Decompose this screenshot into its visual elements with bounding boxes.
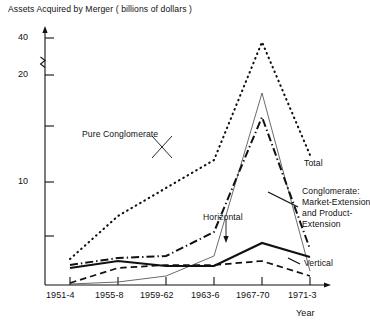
series-pure-conglomerate: [70, 93, 310, 284]
annotation-leaders: [152, 136, 300, 264]
annotation-horizontal: Horizontal: [203, 212, 243, 223]
y-tick-label-20: 20: [18, 69, 28, 79]
x-tick-label-1971-3: 1971-3: [288, 290, 317, 300]
x-tick-label-1963-6: 1963-6: [191, 290, 220, 300]
axes: [41, 26, 332, 288]
y-tick-label-40: 40: [18, 32, 28, 42]
x-tick-label-1951-4: 1951-4: [46, 290, 75, 300]
annotation-vertical: Vertical: [304, 258, 333, 269]
y-tick-label-10: 10: [18, 176, 28, 186]
annotation-conglomerate-line-4: Extension: [302, 219, 341, 230]
annotation-conglomerate-line-1: Conglomerate:: [302, 186, 360, 197]
x-axis-title: Year: [296, 308, 315, 318]
annotation-pure-conglomerate: Pure Conglomerate: [82, 129, 158, 140]
series-horizontal: [70, 243, 310, 268]
annotation-conglomerate-line-2: Market-Extension: [302, 197, 370, 208]
annotation-total: Total: [304, 158, 323, 169]
annotation-conglomerate-line-3: and Product-: [302, 208, 352, 219]
series-vertical: [70, 261, 310, 283]
x-tick-label-1959-62: 1959-62: [140, 290, 174, 300]
x-tick-label-1967-70: 1967-70: [236, 290, 270, 300]
x-tick-label-1955-8: 1955-8: [95, 290, 124, 300]
